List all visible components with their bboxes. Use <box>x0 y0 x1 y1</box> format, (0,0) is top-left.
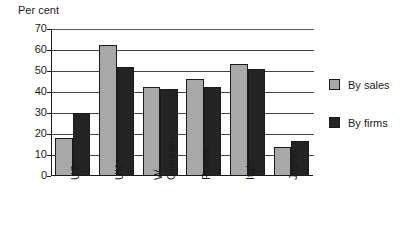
x-axis-label-text: France <box>200 146 212 180</box>
x-axis-label-text: Germany <box>165 135 177 180</box>
y-axis-title: Per cent <box>18 4 59 17</box>
bar-chart: Per cent 010203040506070 USUKWGermanyFra… <box>0 0 402 246</box>
legend-label: By firms <box>348 117 388 129</box>
bar-w-germany-by-sales <box>143 87 161 176</box>
legend-label: By sales <box>348 79 390 91</box>
y-tick-label-20: 20 <box>3 128 47 139</box>
y-tick-label-60: 60 <box>3 44 47 55</box>
legend-item-by-sales[interactable]: By sales <box>329 78 401 91</box>
y-tick-label-30: 30 <box>3 107 47 118</box>
legend-item-by-firms[interactable]: By firms <box>329 116 401 129</box>
bar-uk-by-firms <box>117 67 135 176</box>
legend: By salesBy firms <box>329 78 401 154</box>
y-axis-ticks: 010203040506070 <box>0 29 47 176</box>
x-axis-label-text: UK <box>113 165 125 180</box>
firms-swatch-icon <box>329 117 340 128</box>
x-axis-labels: USUKWGermanyFranceItalyJapan <box>51 178 313 246</box>
y-tick-label-50: 50 <box>3 65 47 76</box>
y-tick-label-40: 40 <box>3 86 47 97</box>
y-tick-mark-0 <box>47 176 51 177</box>
bars-layer <box>51 29 313 176</box>
bar-uk-by-sales <box>99 45 117 176</box>
y-tick-label-0: 0 <box>3 170 47 181</box>
y-tick-label-10: 10 <box>3 149 47 160</box>
x-axis-label-text: US <box>69 165 81 180</box>
x-axis-label-text: Japan <box>287 150 299 180</box>
y-tick-label-70: 70 <box>3 23 47 34</box>
x-axis-label-text: Italy <box>244 160 256 180</box>
x-axis-label-text: W <box>152 170 164 180</box>
sales-swatch-icon <box>329 79 340 90</box>
